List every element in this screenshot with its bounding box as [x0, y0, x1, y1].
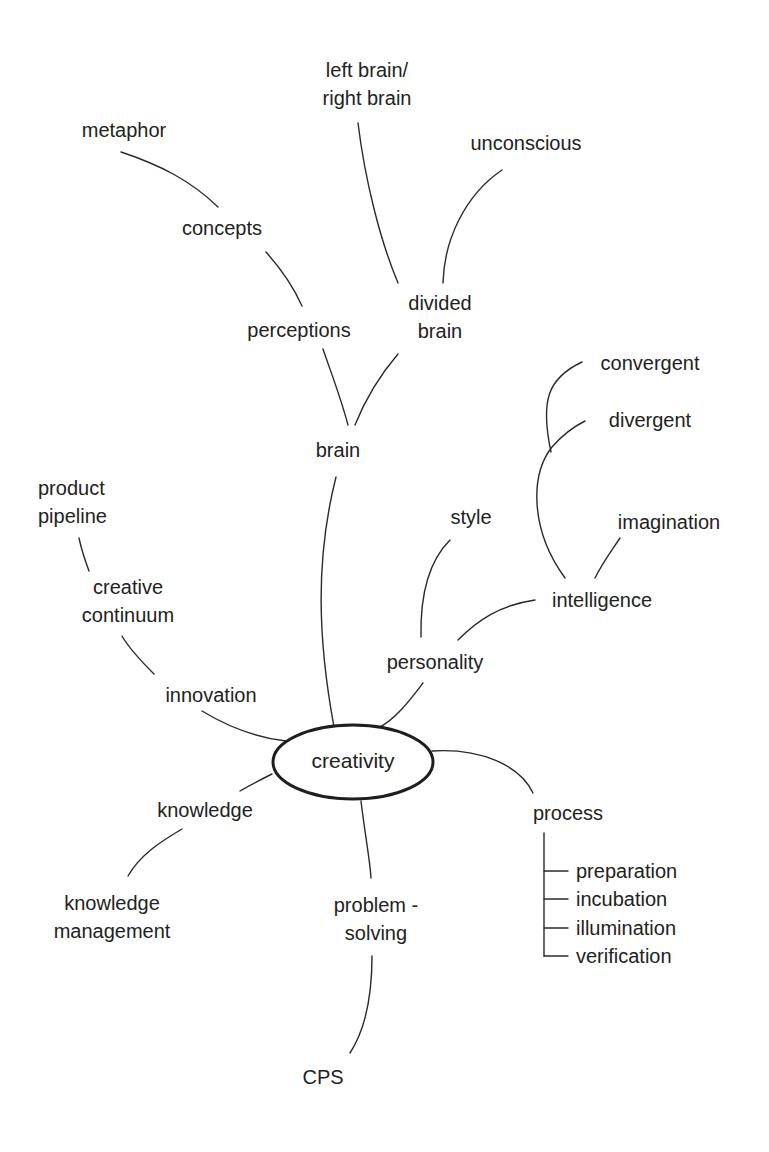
node-personality: personality	[376, 648, 494, 676]
node-knowledge-management-line1: knowledge	[40, 889, 184, 917]
edge-knowledge-management	[128, 829, 182, 876]
node-product-pipeline: product pipeline	[38, 474, 128, 530]
center-node-creativity: creativity	[293, 747, 413, 775]
node-product-pipeline-line2: pipeline	[38, 502, 128, 530]
node-knowledge-management: knowledge management	[40, 889, 184, 945]
node-creative-continuum: creative continuum	[70, 573, 186, 629]
node-problem-solving: problem - solving	[322, 891, 430, 947]
edge-perceptions-concepts	[266, 252, 302, 306]
node-perceptions: perceptions	[236, 316, 362, 344]
node-cps: CPS	[295, 1063, 351, 1091]
node-metaphor: metaphor	[72, 116, 176, 144]
node-brain: brain	[303, 436, 373, 464]
node-concepts: concepts	[172, 214, 272, 242]
node-divided-brain: divided brain	[385, 289, 495, 345]
edge-creativity-knowledge	[240, 774, 272, 791]
node-problem-solving-line1: problem -	[322, 891, 430, 919]
node-problem-solving-line2: solving	[322, 919, 430, 947]
node-left-right-brain-line2: right brain	[305, 84, 429, 112]
node-style: style	[442, 503, 500, 531]
edge-creativity-innovation	[202, 711, 286, 741]
edge-concepts-metaphor	[121, 152, 218, 207]
edge-personality-intelligence	[458, 600, 535, 640]
node-knowledge-management-line2: management	[40, 917, 184, 945]
mind-map-canvas: creativity brain perceptions concepts me…	[0, 0, 769, 1152]
node-divided-brain-line2: brain	[385, 317, 495, 345]
edge-intelligence-imagination	[595, 538, 620, 578]
edge-innovation-continuum	[122, 636, 154, 674]
node-knowledge: knowledge	[146, 796, 264, 824]
edge-intelligence-divergent	[537, 421, 585, 578]
node-imagination: imagination	[607, 508, 731, 536]
edge-creativity-personality	[378, 683, 423, 728]
node-product-pipeline-line1: product	[38, 474, 128, 502]
node-process-step-preparation: preparation	[576, 857, 677, 885]
edge-creativity-process	[432, 751, 533, 793]
edge-divergent-convergent	[546, 362, 582, 452]
node-left-right-brain: left brain/ right brain	[305, 56, 429, 112]
node-intelligence: intelligence	[540, 586, 664, 614]
edge-continuum-pipeline	[79, 538, 89, 571]
node-innovation: innovation	[156, 681, 266, 709]
node-process-step-verification: verification	[576, 942, 672, 970]
edge-divided-unconscious	[443, 170, 502, 283]
edge-divided-left-right	[358, 123, 398, 283]
node-creative-continuum-line2: continuum	[70, 601, 186, 629]
node-process-step-illumination: illumination	[576, 914, 676, 942]
edge-brain-perceptions	[323, 349, 348, 425]
node-process: process	[524, 799, 612, 827]
edge-creativity-problem-solving	[361, 801, 371, 878]
node-unconscious: unconscious	[458, 129, 594, 157]
edge-brain-divided-brain	[355, 354, 398, 425]
edge-problem-solving-cps	[350, 956, 372, 1053]
edge-creativity-brain	[321, 477, 336, 727]
node-process-step-incubation: incubation	[576, 885, 667, 913]
node-convergent: convergent	[590, 349, 710, 377]
node-divergent: divergent	[599, 406, 701, 434]
node-creative-continuum-line1: creative	[70, 573, 186, 601]
node-divided-brain-line1: divided	[385, 289, 495, 317]
node-left-right-brain-line1: left brain/	[305, 56, 429, 84]
edge-personality-style	[421, 540, 450, 637]
